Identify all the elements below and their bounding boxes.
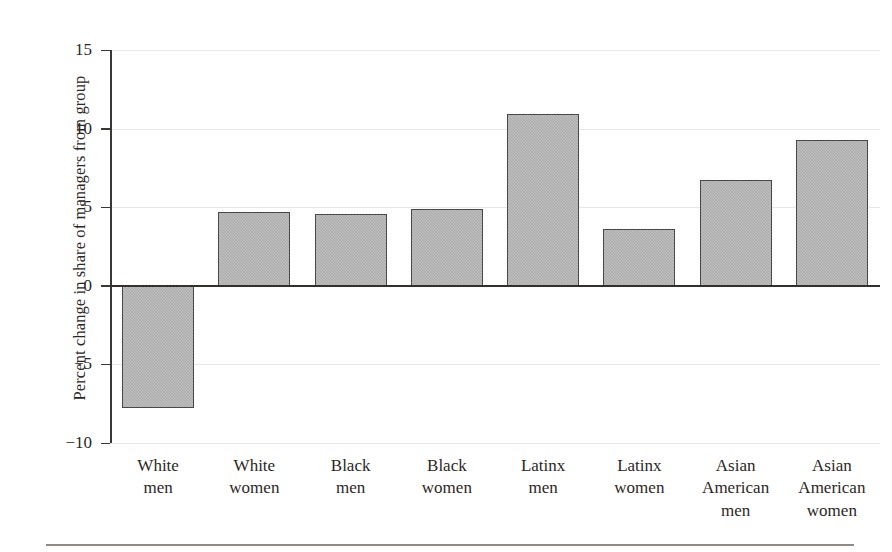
bar [796,140,868,285]
y-axis-tick-label: −10 [46,434,92,451]
x-axis-label-line: women [591,477,687,499]
bar [507,114,579,285]
x-axis-label-line: White [110,455,206,477]
bar [603,229,675,286]
x-axis-label-line: women [399,477,495,499]
x-axis-label-line: Black [399,455,495,477]
x-axis-label-line: men [110,477,206,499]
x-axis-label-line: American [784,477,880,499]
plot-area [110,50,880,443]
x-axis-label-line: men [688,500,784,522]
x-axis-label-line: Asian [688,455,784,477]
gridline [110,443,880,444]
x-axis-label-line: Latinx [591,455,687,477]
x-axis-label-line: White [206,455,302,477]
y-axis-tick-mark [101,443,110,445]
gridline [110,129,880,130]
x-axis-category-label: AsianAmericanwomen [784,455,880,522]
x-axis-label-line: men [495,477,591,499]
bar [122,286,194,409]
x-axis-category-label: Latinxwomen [591,455,687,500]
bar [218,212,290,286]
y-axis-tick-label: 10 [46,120,92,137]
y-axis-tick-label: 15 [46,41,92,58]
x-axis-label-line: men [303,477,399,499]
x-axis-category-label: Whitemen [110,455,206,500]
footer-rule [46,544,854,546]
bar [700,180,772,285]
y-axis-tick-label: −5 [46,355,92,372]
y-axis-tick-mark [101,50,110,52]
zero-baseline [110,285,880,287]
y-axis-tick-label: 0 [46,277,92,294]
y-axis-tick-mark [101,128,110,130]
y-axis-tick-label: 5 [46,198,92,215]
x-axis-category-label: Blackwomen [399,455,495,500]
gridline [110,364,880,365]
y-axis-tick-mark [101,364,110,366]
x-axis-label-line: American [688,477,784,499]
x-axis-label-line: women [206,477,302,499]
x-axis-label-line: Latinx [495,455,591,477]
y-axis-line [110,50,112,443]
bar-chart-figure: Percent change in share of managers from… [0,0,892,552]
x-axis-label-line: Black [303,455,399,477]
bar [411,209,483,286]
gridline [110,50,880,51]
x-axis-category-label: Whitewomen [206,455,302,500]
x-axis-category-label: AsianAmericanmen [688,455,784,522]
x-axis-category-label: Latinxmen [495,455,591,500]
y-axis-title: Percent change in share of managers from… [70,8,90,468]
bar [315,214,387,286]
x-axis-label-line: Asian [784,455,880,477]
x-axis-category-label: Blackmen [303,455,399,500]
y-axis-tick-mark [101,207,110,209]
y-axis-tick-mark [101,285,110,287]
x-axis-label-line: women [784,500,880,522]
